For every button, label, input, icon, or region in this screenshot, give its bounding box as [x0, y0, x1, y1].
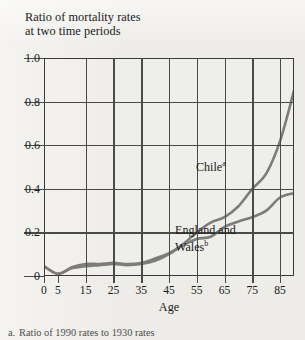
x-tick-label: 15 [80, 284, 92, 297]
y-tick-label: 0.4 [14, 181, 40, 196]
x-tick-label: 75 [247, 284, 259, 297]
x-tick-mark [169, 276, 170, 283]
x-tick-label: 0 [41, 284, 47, 297]
x-tick-mark [113, 276, 114, 283]
y-tick-label: 0.6 [14, 138, 40, 153]
x-tick-label: 25 [108, 284, 120, 297]
x-tick-mark [86, 276, 87, 283]
x-gridline [113, 58, 114, 276]
series-label-chile-marker: a [222, 159, 226, 168]
chart-title-line-1: Ratio of mortality rates [25, 10, 275, 24]
x-tick-label: 5 [55, 284, 61, 297]
x-tick-mark [252, 276, 253, 283]
footnote-marker: a. [8, 327, 19, 339]
x-tick-mark [58, 276, 59, 283]
series-label-england-and-wales: England and Walesb [175, 224, 270, 255]
x-gridline [86, 58, 87, 276]
chart-title-line-2: at two time periods [25, 24, 275, 38]
footnote: a.Ratio of 1990 rates to 1930 rates [8, 327, 298, 339]
x-tick-label: 85 [274, 284, 286, 297]
series-label-england-and-wales-marker: b [204, 239, 208, 248]
x-gridline [141, 58, 142, 276]
series-label-chile-text: Chile [196, 160, 222, 174]
x-tick-label: 65 [219, 284, 231, 297]
plot-area: 00.20.40.60.81.0 051525354555657585 Chil… [44, 58, 294, 276]
series-label-chile: Chilea [196, 157, 226, 174]
footnote-text: Ratio of 1990 rates to 1930 rates [19, 327, 155, 338]
x-axis-title: Age [44, 300, 294, 315]
x-gridline [169, 58, 170, 276]
y-tick-label: 1.0 [14, 51, 40, 66]
y-tick-label: 0.8 [14, 94, 40, 109]
x-tick-label: 55 [191, 284, 203, 297]
x-tick-mark [280, 276, 281, 283]
x-gridline [280, 58, 281, 276]
x-tick-label: 45 [163, 284, 175, 297]
x-tick-mark [225, 276, 226, 283]
x-tick-mark [44, 276, 45, 283]
footnote-line: a.Ratio of 1990 rates to 1930 rates [8, 327, 298, 339]
x-tick-label: 35 [135, 284, 147, 297]
chart-title: Ratio of mortality rates at two time per… [25, 10, 275, 38]
y-tick-label: 0.2 [14, 225, 40, 240]
x-tick-mark [197, 276, 198, 283]
x-tick-mark [141, 276, 142, 283]
y-tick-label: 0 [14, 269, 40, 284]
